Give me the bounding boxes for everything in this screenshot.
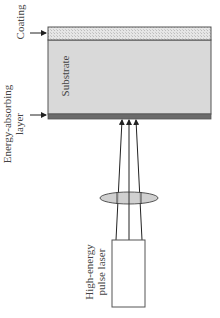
laser-shock-diagram: Coating Substrate Energy-absorbing layer… (0, 0, 220, 318)
energy-layer-label-line2: layer (13, 79, 25, 169)
pulse-laser-label: High-energy pulse laser (83, 237, 107, 307)
energy-absorbing-layer (48, 114, 211, 119)
energy-absorbing-layer-label: Energy-absorbing layer (1, 79, 25, 169)
coating-label-text: Coating (14, 5, 26, 40)
laser-beams (116, 120, 142, 240)
laser-label-line1: High-energy (83, 237, 95, 307)
coating-label: Coating (14, 0, 26, 47)
beam-right (136, 120, 142, 240)
substrate (48, 40, 211, 114)
laser-label-line2: pulse laser (95, 237, 107, 307)
energy-layer-label-line1: Energy-absorbing (1, 79, 13, 169)
pulse-laser-box (112, 240, 145, 307)
beam-left (116, 120, 122, 240)
substrate-label: Substrate (59, 46, 71, 106)
substrate-label-text: Substrate (59, 56, 71, 97)
coating-layer (48, 27, 211, 40)
focusing-lens (100, 192, 158, 204)
diagram-canvas (0, 0, 220, 318)
